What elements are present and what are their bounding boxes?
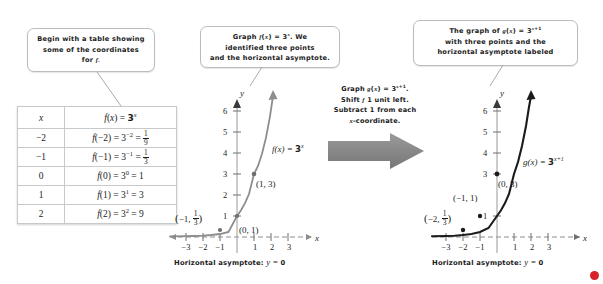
asymptote-label-g: Horizontal asymptote: y = 0 xyxy=(432,257,543,267)
x-tick-label: −3 xyxy=(180,242,192,252)
x-tick-label: 1 xyxy=(509,242,521,252)
point-g-0 xyxy=(495,172,500,177)
y-tick-label: 5 xyxy=(220,127,230,137)
y-tick-label: 4 xyxy=(480,148,490,158)
table-cell-x: 0 xyxy=(18,167,65,186)
graph-g-container: y x −3 −2 −1 1 2 3 1 3 4 5 6 (−2, 13) (−… xyxy=(428,85,598,280)
point-label-f-1: (1, 3) xyxy=(256,179,276,189)
graph-f-container: y x −3 −2 −1 1 2 3 1 2 3 4 5 6 (−1, 13) … xyxy=(160,85,325,280)
table-cell-x: −2 xyxy=(18,129,65,148)
callout-graph-f: Graph f(x) = 3x. We identified three poi… xyxy=(200,26,340,68)
table-row: −1 f(−1) = 3−1 = 13 xyxy=(18,148,177,167)
function-label-g: g(x) = 3x+1 xyxy=(523,157,564,167)
point-g-neg2 xyxy=(461,228,465,232)
transformation-instruction: Graph g(x) = 3x+1. Shift f 1 unit left. … xyxy=(318,84,432,127)
function-label-f: f(x) = 3x xyxy=(272,144,304,154)
x-tick-label: −1 xyxy=(214,242,226,252)
x-tick-label: 2 xyxy=(266,242,278,252)
instruction-line1: Graph g(x) = 3x+1. xyxy=(341,85,408,93)
callout-right-line2: with three points and the xyxy=(445,38,546,46)
coordinates-table: x f(x) = 3x −2 f(−2) = 3−2 = 19 −1 f(−1)… xyxy=(17,106,177,224)
page-marker-dot xyxy=(590,271,599,280)
y-tick-label: 4 xyxy=(220,148,230,158)
y-tick-label: 6 xyxy=(480,106,490,116)
x-axis-label-f: x xyxy=(315,233,319,243)
callout-right-line3: horizontal asymptote labeled xyxy=(437,48,553,56)
point-f-0 xyxy=(235,214,239,218)
x-tick-label: −3 xyxy=(440,242,452,252)
x-axis-label-g: x xyxy=(583,233,587,243)
y-axis-label-f: y xyxy=(240,88,244,98)
x-axis-arrow-right-f xyxy=(306,234,312,240)
y-tick-label: 2 xyxy=(220,190,230,200)
y-tick-label: 1 xyxy=(480,211,490,221)
curve-g-arrow xyxy=(527,90,536,100)
table-row: 0 f(0) = 30 = 1 xyxy=(18,167,177,186)
point-label-g-neg2: (−2, 13) xyxy=(424,210,451,226)
y-tick-label: 5 xyxy=(480,127,490,137)
curve-f-arrow xyxy=(269,90,278,100)
table-row: −2 f(−2) = 3−2 = 19 xyxy=(18,129,177,148)
callout-left-line1: Begin with a table showing xyxy=(37,35,144,43)
table-row: 2 f(2) = 32 = 9 xyxy=(18,205,177,224)
instruction-line2: Shift f 1 unit left. xyxy=(341,96,409,104)
y-tick-label: 3 xyxy=(480,169,490,179)
callout-mid-line2: identified three points xyxy=(225,44,315,52)
table-cell-x: 2 xyxy=(18,205,65,224)
y-axis-arrow-g xyxy=(493,99,501,108)
x-tick-label: −1 xyxy=(474,242,486,252)
point-f-1 xyxy=(252,172,257,177)
coordinates-table-wrapper: x f(x) = 3x −2 f(−2) = 3−2 = 19 −1 f(−1)… xyxy=(17,106,177,224)
callout-right-line1: The graph of g(x) = 3x+1 xyxy=(449,27,541,35)
right-arrow-icon xyxy=(328,133,424,169)
y-axis-label-g: y xyxy=(500,88,504,98)
x-tick-label: −2 xyxy=(457,242,469,252)
figure-canvas: Begin with a table showing some of the c… xyxy=(0,0,603,284)
y-tick-label: 6 xyxy=(220,106,230,116)
table-header-x: x xyxy=(18,107,65,129)
y-tick-label: 3 xyxy=(220,169,230,179)
point-label-f-neg1: (−1, 13) xyxy=(175,210,202,226)
x-tick-label: 2 xyxy=(526,242,538,252)
table-row: 1 f(1) = 31 = 3 xyxy=(18,186,177,205)
x-axis-arrow-right-g xyxy=(574,234,580,240)
y-axis-arrow-f xyxy=(233,99,241,108)
table-cell-x: −1 xyxy=(18,148,65,167)
callout-left-line3: for f. xyxy=(82,56,100,64)
point-label-f-0: (0, 1) xyxy=(239,225,259,235)
x-tick-label: 1 xyxy=(249,242,261,252)
point-label-g-neg1: (−1, 1) xyxy=(453,193,478,203)
x-tick-label: 3 xyxy=(283,242,295,252)
y-tick-label: 1 xyxy=(220,211,230,221)
x-tick-label: 3 xyxy=(543,242,555,252)
x-tick-label: −2 xyxy=(197,242,209,252)
table-header-row: x f(x) = 3x xyxy=(18,107,177,129)
callout-mid-line3: and the horizontal asymptote. xyxy=(210,54,330,62)
callout-mid-line1: Graph f(x) = 3x. We xyxy=(233,33,307,41)
table-cell-x: 1 xyxy=(18,186,65,205)
asymptote-label-f: Horizontal asymptote: y = 0 xyxy=(174,257,285,267)
callout-table-instruction: Begin with a table showing some of the c… xyxy=(27,28,155,72)
instruction-line3: Subtract 1 from each xyxy=(334,106,417,114)
point-label-g-0: (0, 3) xyxy=(498,179,518,189)
callout-graph-g: The graph of g(x) = 3x+1 with three poin… xyxy=(413,20,578,66)
callout-left-line2: some of the coordinates xyxy=(43,46,139,54)
callout-left-leader-line xyxy=(95,70,135,110)
instruction-line4: x-coordinate. xyxy=(349,117,400,125)
point-f-neg1 xyxy=(218,228,222,232)
